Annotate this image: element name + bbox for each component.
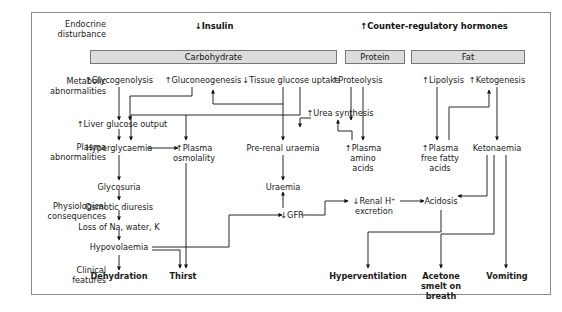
category-label: Fat <box>462 52 474 62</box>
node-renal-h-excretion: ↓Renal H⁺ excretion <box>349 197 399 217</box>
node-plasma-amino-acids: ↑Plasma amino acids <box>340 144 386 174</box>
node-hyperglycaemia: Hyperglycaemia <box>86 144 153 154</box>
node-dehydration: Dehydration <box>90 272 147 282</box>
category-label: Protein <box>360 52 389 62</box>
row-label-line: abnormalities <box>50 86 106 96</box>
node-proteolysis: ↑Proteolysis <box>331 76 382 86</box>
node-lipolysis: ↑Lipolysis <box>422 76 464 86</box>
node-hypovolaemia: Hypovolaemia <box>90 243 149 253</box>
header-insulin: ↓Insulin <box>195 21 234 31</box>
node-liver-glucose-output: ↑Liver glucose output <box>77 120 168 130</box>
node-acetone-smelt-on-breath: Acetone smelt on breath <box>411 272 471 302</box>
node-glycosuria: Glycosuria <box>97 183 140 193</box>
node-tissue-glucose-uptake: ↓Tissue glucose uptake <box>242 76 339 86</box>
category-box-fat: Fat <box>411 50 525 64</box>
node-acidosis: Acidosis <box>424 197 457 207</box>
node-plasma-osmolality: ↑Plasma osmolality <box>172 144 216 164</box>
category-box-carbohydrate: Carbohydrate <box>90 50 337 64</box>
diagram-canvas: Endocrine disturbance Metabolic abnormal… <box>0 0 562 312</box>
node-osmotic-diuresis: Osmotic diuresis <box>85 203 153 213</box>
node-gluconeogenesis: ↑Gluconeogenesis <box>165 76 242 86</box>
node-glycogenolysis: ↑Glycogenolysis <box>85 76 153 86</box>
node-hyperventilation: Hyperventilation <box>329 272 407 282</box>
node-urea-synthesis: ↑Urea synthesis <box>306 109 373 119</box>
header-counter-regulatory-hormones: ↑Counter-regulatory hormones <box>360 21 508 31</box>
row-label-line: disturbance <box>58 29 106 39</box>
category-label: Carbohydrate <box>185 52 242 62</box>
node-loss-of-na-water-k: Loss of Na, water, K <box>78 223 159 233</box>
node-gfr: ↓GFR <box>280 211 304 221</box>
node-ketogenesis: ↑Ketogenesis <box>469 76 525 86</box>
node-vomiting: Vomiting <box>486 272 527 282</box>
node-pre-renal-uraemia: Pre-renal uraemia <box>246 144 319 154</box>
row-label-line: Endocrine <box>58 19 106 29</box>
row-label-endocrine: Endocrine disturbance <box>58 19 106 40</box>
node-plasma-free-fatty-acids: ↑Plasma free fatty acids <box>414 144 466 174</box>
node-ketonaemia: Ketonaemia <box>473 144 522 154</box>
node-uraemia: Uraemia <box>266 183 301 193</box>
category-box-protein: Protein <box>345 50 405 64</box>
node-thirst: Thirst <box>169 272 196 282</box>
